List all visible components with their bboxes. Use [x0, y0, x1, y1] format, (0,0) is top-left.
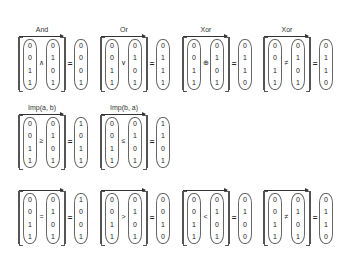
operator-symbol: ∨ [119, 59, 128, 67]
vector-entry: 1 [273, 221, 277, 229]
operator-symbol: ⊕ [201, 59, 210, 67]
equals-symbol: = [230, 59, 238, 68]
vector-entry: 1 [79, 79, 83, 87]
vector-entry: 0 [215, 67, 219, 75]
vector-entry: 0 [324, 233, 328, 241]
vector-entry: 0 [243, 196, 247, 204]
vector-entry: 0 [51, 67, 55, 75]
vector-entry: 1 [51, 79, 55, 87]
vector-entry: 0 [273, 54, 277, 62]
vector-entry: 1 [133, 79, 137, 87]
operation-block: 0011=0101=1001 [17, 180, 99, 252]
vector-b: 0101 [128, 117, 142, 168]
vector-entry: 1 [161, 54, 165, 62]
vector-entry: 0 [79, 42, 83, 50]
operation-block: Xor0011≠0101=0110 [262, 26, 344, 98]
vector-a: 0011 [268, 193, 282, 244]
vector-entry: 0 [273, 208, 277, 216]
operator-symbol: = [37, 213, 46, 220]
result-vector: 0111 [156, 39, 170, 90]
vector-entry: 0 [133, 42, 137, 50]
operator-symbol: < [201, 213, 210, 220]
vector-entry: 0 [296, 196, 300, 204]
vector-entry: 0 [28, 54, 32, 62]
vector-entry: 0 [161, 233, 165, 241]
vector-entry: 1 [243, 208, 247, 216]
vector-entry: 0 [215, 196, 219, 204]
vector-b: 0101 [210, 193, 224, 244]
vector-entry: 1 [243, 54, 247, 62]
vector-entry: 1 [161, 79, 165, 87]
operation-block: Imp(b, a)0011≤0101=1101 [99, 104, 181, 176]
vector-entry: 1 [133, 132, 137, 140]
equals-symbol: = [66, 59, 74, 68]
vector-b: 0101 [291, 39, 305, 90]
result-vector: 1101 [156, 117, 170, 168]
vector-entry: 1 [324, 67, 328, 75]
vector-entry: 0 [133, 221, 137, 229]
vector-entry: 0 [110, 208, 114, 216]
equals-symbol: = [148, 213, 156, 222]
operator-symbol: ≠ [282, 213, 291, 220]
vector-entry: 1 [192, 233, 196, 241]
vector-entry: 0 [243, 233, 247, 241]
vector-b: 0101 [46, 117, 60, 168]
vector-entry: 0 [161, 208, 165, 216]
vector-entry: 0 [192, 208, 196, 216]
operation-block: 0011≠0101=0110 [262, 180, 344, 252]
vector-a: 0011 [105, 193, 119, 244]
vector-entry: 1 [161, 221, 165, 229]
vector-entry: 1 [161, 120, 165, 128]
vector-entry: 1 [51, 157, 55, 165]
vector-entry: 1 [215, 208, 219, 216]
vector-a: 0011 [268, 39, 282, 90]
vector-entry: 0 [51, 42, 55, 50]
vector-entry: 0 [110, 54, 114, 62]
vector-entry: 0 [324, 42, 328, 50]
vector-entry: 1 [28, 221, 32, 229]
vector-entry: 0 [273, 42, 277, 50]
vector-entry: 0 [161, 196, 165, 204]
vector-entry: 1 [79, 196, 83, 204]
vector-entry: 1 [296, 233, 300, 241]
vector-entry: 0 [133, 196, 137, 204]
vector-entry: 1 [28, 67, 32, 75]
vector-entry: 0 [110, 120, 114, 128]
vector-b: 0101 [210, 39, 224, 90]
vector-entry: 0 [296, 42, 300, 50]
vector-entry: 0 [133, 120, 137, 128]
vector-entry: 0 [192, 54, 196, 62]
result-vector: 0110 [319, 39, 333, 90]
vector-entry: 1 [161, 132, 165, 140]
vector-entry: 1 [324, 208, 328, 216]
vector-entry: 0 [215, 42, 219, 50]
result-vector: 0110 [319, 193, 333, 244]
vector-a: 0011 [105, 117, 119, 168]
result-vector: 1001 [74, 193, 88, 244]
operator-symbol: > [119, 213, 128, 220]
vector-entry: 1 [110, 157, 114, 165]
vector-entry: 1 [215, 79, 219, 87]
vector-entry: 0 [79, 67, 83, 75]
result-vector: 0001 [74, 39, 88, 90]
vector-a: 0011 [187, 193, 201, 244]
vector-entry: 0 [51, 145, 55, 153]
vector-entry: 1 [110, 145, 114, 153]
vector-entry: 1 [110, 233, 114, 241]
vector-entry: 1 [51, 54, 55, 62]
operation-block: 0011<0101=0100 [181, 180, 263, 252]
vector-b: 0101 [46, 193, 60, 244]
vector-b: 0101 [46, 39, 60, 90]
operation-block: 0011>0101=0010 [99, 180, 181, 252]
vector-a: 0011 [23, 39, 37, 90]
vector-entry: 0 [161, 145, 165, 153]
vector-entry: 0 [273, 196, 277, 204]
vector-entry: 1 [273, 233, 277, 241]
equals-symbol: = [148, 59, 156, 68]
vector-entry: 1 [79, 157, 83, 165]
vector-entry: 0 [110, 196, 114, 204]
vector-entry: 1 [273, 79, 277, 87]
vector-entry: 1 [273, 67, 277, 75]
vector-entry: 1 [133, 157, 137, 165]
vector-entry: 0 [79, 54, 83, 62]
